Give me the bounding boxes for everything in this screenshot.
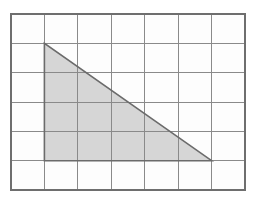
grid-triangle-figure (0, 0, 256, 205)
figure-container (0, 0, 256, 205)
